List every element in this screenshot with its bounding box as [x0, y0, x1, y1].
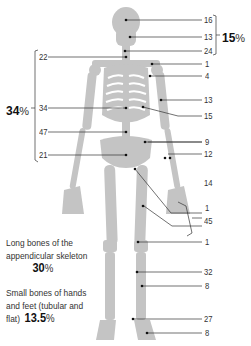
- label-humerus: 13: [204, 95, 213, 105]
- label-sacrum: 21: [39, 150, 48, 160]
- label-forearm: 12: [204, 149, 213, 159]
- label-femur-head: 1: [205, 203, 209, 213]
- axial-group-percent: 34%: [6, 101, 29, 119]
- label-lumbar: 47: [39, 127, 48, 137]
- label-skull-vault: 16: [204, 15, 213, 25]
- caption-long-bones: Long bones of the appendicular skeleton …: [6, 236, 87, 275]
- label-thoracic: 34: [39, 103, 48, 113]
- label-face: 13: [204, 32, 213, 42]
- label-foot: 8: [205, 328, 209, 338]
- label-ribs: 15: [204, 111, 213, 121]
- label-fibula: 8: [205, 281, 209, 291]
- label-femur: 45: [204, 216, 213, 226]
- label-cervical: 24: [204, 46, 213, 56]
- caption-small-bones: Small bones of hands and feet (tubular a…: [6, 286, 86, 325]
- label-ilium: 9: [205, 137, 209, 147]
- label-tarsus: 27: [204, 314, 213, 324]
- label-neck-vertebrae: 22: [39, 52, 48, 62]
- label-hand: 14: [204, 178, 213, 188]
- label-shoulder: 4: [205, 71, 209, 81]
- label-clavicle: 1: [205, 59, 209, 69]
- skull-group-percent: 15%: [222, 28, 245, 46]
- label-tibia: 32: [204, 267, 213, 277]
- label-patella: 1: [205, 237, 209, 247]
